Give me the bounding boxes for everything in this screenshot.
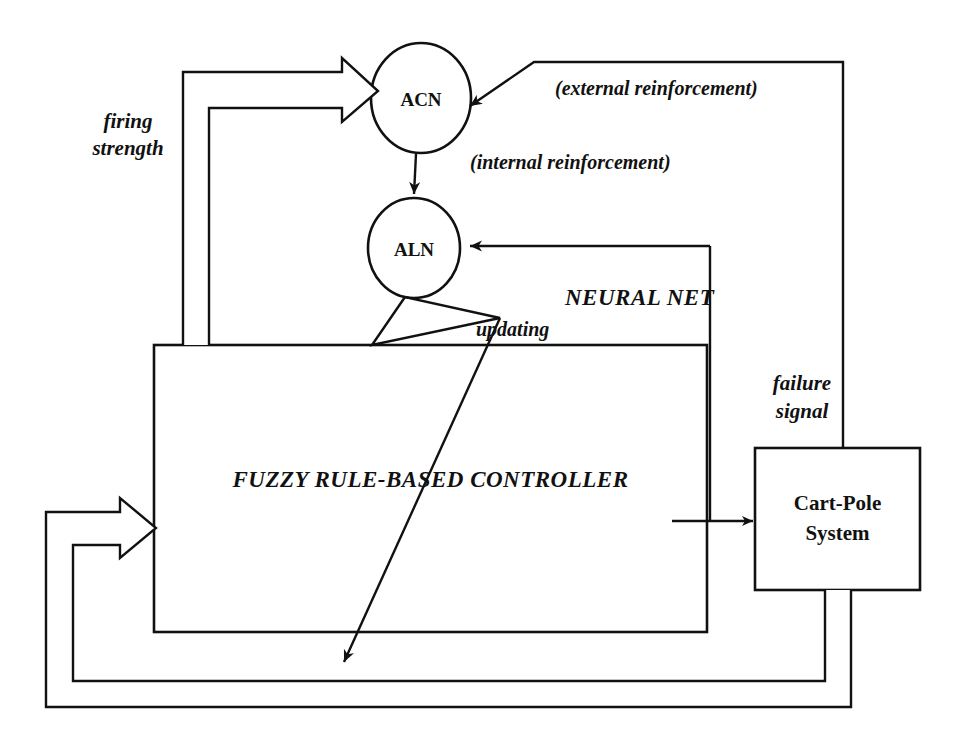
plant-box-label-line2: System (755, 518, 920, 548)
aln-node-label: ALN (379, 238, 449, 261)
failure-signal-label-line2: signal (757, 399, 847, 425)
external-reinforcement-label: (external reinforcement) (555, 76, 758, 100)
failure-signal-label-line1: failure (757, 371, 847, 397)
acn-node-label: ACN (386, 88, 456, 111)
updating-label: updating (476, 317, 549, 341)
firing-strength-label-line1: firing (83, 109, 173, 135)
internal-reinforcement-edge (414, 154, 416, 194)
diagram-canvas: ACN ALN (external reinforcement) (intern… (0, 0, 960, 742)
firing-strength-edge (183, 58, 378, 345)
internal-reinforcement-label: (internal reinforcement) (470, 150, 671, 174)
controller-box-label: FUZZY RULE-BASED CONTROLLER (183, 466, 678, 494)
firing-strength-label-line2: strength (78, 136, 178, 162)
plant-box-label-line1: Cart-Pole (755, 488, 920, 518)
neural-net-label: NEURAL NET (565, 284, 714, 312)
